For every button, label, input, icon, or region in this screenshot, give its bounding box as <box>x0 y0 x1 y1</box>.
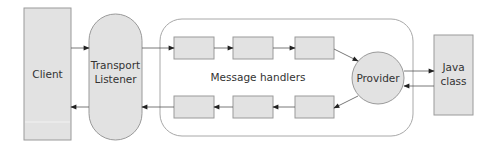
java-class-node: Java class <box>434 35 473 115</box>
transport-listener-label-line1: Transport <box>90 59 140 71</box>
request-handler-1 <box>174 37 214 59</box>
java-class-label-line1: Java <box>441 61 464 73</box>
response-handler-3 <box>295 96 334 118</box>
message-handlers-group: Message handlers Provider <box>160 19 413 136</box>
java-class-label-line2: class <box>440 75 466 87</box>
client-node: Client <box>24 8 71 140</box>
message-handlers-label: Message handlers <box>211 71 306 83</box>
client-label: Client <box>32 68 62 80</box>
provider-label: Provider <box>356 72 400 84</box>
request-handler-3 <box>295 37 334 59</box>
transport-listener-label-line2: Listener <box>94 73 137 85</box>
architecture-diagram: Client Transport Listener Message handle… <box>0 0 497 149</box>
request-handler-2 <box>233 37 273 59</box>
response-handler-1 <box>174 96 214 118</box>
response-handler-2 <box>233 96 273 118</box>
transport-listener-node: Transport Listener <box>89 14 142 140</box>
